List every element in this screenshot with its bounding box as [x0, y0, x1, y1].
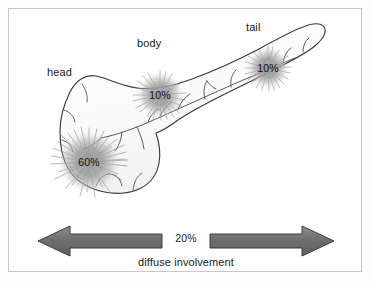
tumor-percent-body: 10% — [149, 89, 171, 101]
diffuse-involvement-caption: diffuse involvement — [0, 256, 372, 268]
pancreas-distribution-figure: head body tail 60% 10% 10% 20% diffuse i… — [0, 0, 372, 283]
diffuse-percent-label: 20% — [0, 232, 372, 244]
anatomy-label-tail: tail — [246, 21, 260, 33]
tumor-percent-head: 60% — [78, 156, 100, 168]
tumor-percent-tail: 10% — [257, 62, 279, 74]
anatomy-label-body: body — [137, 37, 161, 49]
anatomy-label-head: head — [47, 66, 72, 78]
